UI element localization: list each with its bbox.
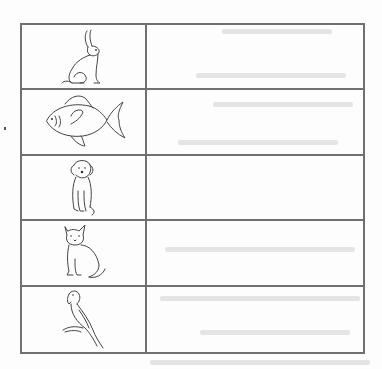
stray-mark xyxy=(4,127,6,130)
rabbit-icon xyxy=(54,27,114,87)
parrot-icon xyxy=(61,288,107,350)
picture-cell-cat xyxy=(22,221,147,286)
fish-icon xyxy=(41,94,127,150)
picture-cell-parrot xyxy=(22,287,147,352)
answer-cell-fish[interactable] xyxy=(147,90,363,155)
answer-cell-rabbit[interactable] xyxy=(147,25,363,90)
dog-icon xyxy=(64,157,104,217)
picture-cell-fish xyxy=(22,90,147,155)
picture-cell-dog xyxy=(22,156,147,221)
answer-cell-parrot[interactable] xyxy=(147,287,363,352)
picture-cell-rabbit xyxy=(22,25,147,90)
worksheet-table xyxy=(20,23,365,354)
cat-icon xyxy=(59,223,109,283)
answer-cell-dog[interactable] xyxy=(147,156,363,221)
answer-cell-cat[interactable] xyxy=(147,221,363,286)
